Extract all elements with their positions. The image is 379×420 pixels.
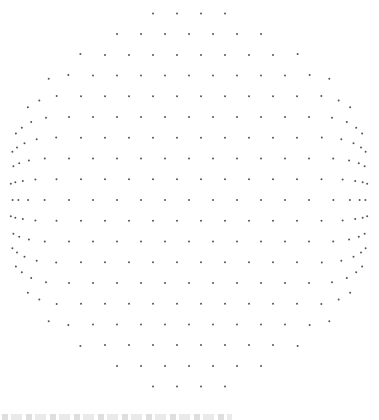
dot [358,236,360,238]
dot [22,218,24,220]
dot [152,12,154,14]
dot [362,181,364,183]
dot [152,137,154,139]
dot [224,178,226,180]
dot [332,158,334,160]
dot [92,323,94,325]
dot [92,116,94,118]
dot [68,241,70,243]
dot [92,199,94,201]
dot [128,220,130,222]
dot [128,54,130,56]
dot [212,365,214,367]
dot [104,137,106,139]
dot [152,303,154,305]
dot [332,241,334,243]
dot [176,303,178,305]
dot [272,303,274,305]
dot [260,241,262,243]
dot [309,74,311,76]
dot [188,323,190,325]
dot [272,178,274,180]
dot [360,147,362,149]
dot [80,261,82,263]
dot [308,199,310,201]
dot [176,220,178,222]
dot [152,54,154,56]
dot [80,220,82,222]
dot [56,303,58,305]
dot [12,199,14,201]
dot [200,137,202,139]
dot [224,95,226,97]
dot [353,142,355,144]
dot [44,158,46,160]
dot [152,261,154,263]
dot [79,53,81,55]
dot [355,127,357,129]
dot [224,54,226,56]
dot [360,251,362,253]
dot [236,75,238,77]
dot [284,323,286,325]
dot [11,247,13,249]
dot [236,323,238,325]
dot [176,261,178,263]
dot [164,199,166,201]
dot [128,137,130,139]
dot [15,133,17,135]
dot [22,180,24,182]
dot [188,33,190,35]
dot [28,160,30,162]
dot [92,158,94,160]
dot [248,344,250,346]
dot [284,241,286,243]
dot [200,386,202,388]
dot [128,303,130,305]
dot [188,158,190,160]
dot [236,158,238,160]
dot [104,261,106,263]
dot [346,277,348,279]
dot [366,183,368,185]
dot [308,158,310,160]
dot [354,180,356,182]
dot [308,282,310,284]
dot [260,365,262,367]
dot [116,158,118,160]
dot [104,303,106,305]
dot [296,137,298,139]
dot [331,281,333,283]
dot [296,220,298,222]
dot [188,241,190,243]
dot [116,241,118,243]
dot [30,121,32,123]
dot [354,218,356,220]
dot [92,75,94,77]
dot [21,271,23,273]
dot [284,158,286,160]
dot [55,262,57,264]
dot [340,138,342,140]
dot [92,241,94,243]
dot [104,178,106,180]
dot [212,75,214,77]
dot [260,323,262,325]
dot [248,137,250,139]
dot [308,241,310,243]
dot [164,282,166,284]
dot [296,303,298,305]
dot [364,165,366,167]
dot [224,137,226,139]
dot [260,199,262,201]
dot [140,241,142,243]
dot [200,178,202,180]
dot [48,320,50,322]
dot [79,345,81,347]
dot [332,199,334,201]
dot [24,142,26,144]
dot [200,54,202,56]
dot [12,165,14,167]
dot [128,261,130,263]
dot [116,365,118,367]
